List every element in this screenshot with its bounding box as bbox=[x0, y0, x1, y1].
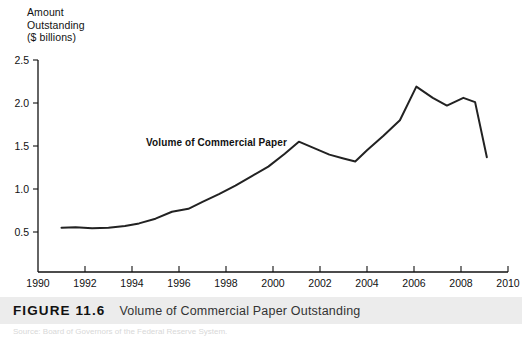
figure-title: Volume of Commercial Paper Outstanding bbox=[119, 304, 360, 318]
figure-source-note: Source: Board of Governors of the Federa… bbox=[13, 327, 513, 336]
chart-plot-area: 0.51.01.52.02.51990199219941996199820002… bbox=[0, 0, 522, 295]
figure-number: FIGURE 11.6 bbox=[13, 303, 105, 318]
figure-container: Amount Outstanding ($ billions) 0.51.01.… bbox=[0, 0, 522, 340]
series-annotation-label: Volume of Commercial Paper bbox=[146, 137, 287, 148]
data-series-line bbox=[62, 87, 487, 228]
figure-caption: FIGURE 11.6 Volume of Commercial Paper O… bbox=[0, 297, 522, 324]
